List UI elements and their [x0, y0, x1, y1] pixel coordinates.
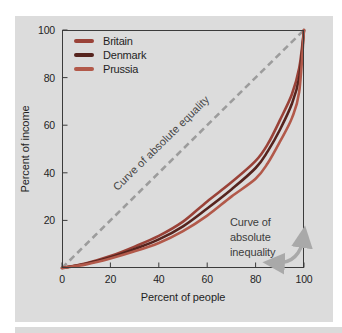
y-tick-label: 20	[44, 214, 55, 226]
x-tick-label: 40	[153, 273, 164, 285]
legend-swatch-icon	[74, 53, 94, 57]
y-tick-label: 40	[44, 167, 55, 179]
x-tick-label: 0	[59, 273, 65, 285]
y-axis-title: Percent of income	[19, 106, 31, 193]
x-axis-title: Percent of people	[141, 291, 226, 303]
x-tick-label: 20	[105, 273, 116, 285]
legend-label: Prussia	[103, 63, 138, 75]
y-tick-label: 80	[44, 72, 55, 84]
inequality-annotation-line: Curve of	[230, 215, 275, 230]
figure-panel: Percent of income Percent of people Curv…	[15, 16, 333, 322]
inequality-arrow-icon	[274, 237, 304, 263]
legend-item: Denmark	[74, 48, 146, 62]
legend-swatch-icon	[74, 67, 94, 71]
legend-label: Britain	[103, 35, 133, 47]
y-tick-label: 100	[38, 24, 55, 36]
inequality-annotation: Curve of absolute inequality	[230, 215, 275, 260]
inequality-annotation-line: absolute	[230, 230, 275, 245]
y-tick-label: 60	[44, 119, 55, 131]
plot-area: Curve of absolute equality Curve of abso…	[62, 30, 304, 268]
next-panel-edge	[15, 327, 342, 333]
inequality-annotation-line: inequality	[230, 245, 275, 260]
x-tick-label: 60	[202, 273, 213, 285]
legend-item: Britain	[74, 34, 146, 48]
legend-swatch-icon	[74, 39, 94, 43]
x-tick-label: 100	[296, 273, 313, 285]
legend-label: Denmark	[103, 49, 146, 61]
legend-item: Prussia	[74, 62, 146, 76]
x-tick-label: 80	[250, 273, 261, 285]
legend: BritainDenmarkPrussia	[74, 34, 146, 76]
